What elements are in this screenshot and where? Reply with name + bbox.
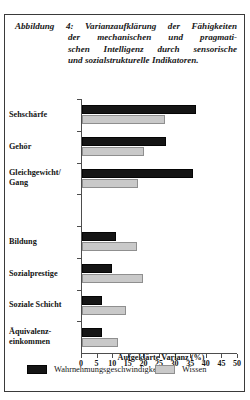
category-label-4: Bildung — [9, 237, 79, 247]
category-label-line-1: Sehschärfe — [9, 110, 79, 120]
legend-swatch-dark-icon — [27, 365, 47, 374]
caption-text-4: und sozialstrukturelle Indikatoren. — [68, 55, 199, 65]
category-label-line-1: Sozialprestige — [9, 269, 79, 279]
caption-text-1: Varianzaufklärung der Fähigkeiten — [85, 21, 237, 31]
y-tick-6 — [77, 290, 81, 291]
category-label-6: Soziale Schicht — [9, 300, 79, 310]
bar-wahrnehmungsgeschwindigkeit-0 — [82, 105, 196, 114]
category-label-line-2: einkommen — [9, 337, 79, 347]
caption-text-3: schen Intelligenz durch sensorische — [68, 44, 237, 54]
bar-wissen-6 — [82, 306, 126, 315]
category-label-line-2: Gang — [9, 178, 79, 188]
bar-wissen-7 — [82, 338, 118, 347]
legend-swatch-light-icon — [155, 365, 175, 374]
bar-wissen-4 — [82, 242, 137, 251]
y-tick-0 — [77, 99, 81, 100]
plot-area: 05101520253035404550 — [81, 99, 237, 353]
caption-line-4: und sozialstrukturelle Indikatoren. — [15, 55, 237, 66]
caption-line-2: der mechanischen und pragmati- — [15, 32, 237, 43]
bar-wahrnehmungsgeschwindigkeit-2 — [82, 169, 193, 178]
category-label-line-1: Gehör — [9, 142, 79, 152]
x-axis-label: Aufgeklärte Varianz (%) — [83, 353, 239, 362]
caption-line-3: schen Intelligenz durch sensorische — [15, 44, 237, 55]
figure-frame: Abbildung 4: Varianzaufklärung der Fähig… — [4, 14, 245, 392]
category-label-column: SehschärfeGehörGleichgewicht/GangBildung… — [9, 99, 79, 353]
category-label-line-1: Bildung — [9, 237, 79, 247]
chart-legend: Wahrnehmungsgeschwindigkeit Wissen — [5, 363, 244, 387]
category-label-1: Gehör — [9, 142, 79, 152]
caption-label: Abbildung 4: — [15, 21, 74, 31]
y-tick-7 — [77, 321, 81, 322]
y-tick-2 — [77, 163, 81, 164]
category-label-line-1: Soziale Schicht — [9, 300, 79, 310]
x-tick-0 — [81, 354, 82, 358]
category-label-line-1: Gleichgewicht/ — [9, 168, 79, 178]
category-label-7: Äquivalenz-einkommen — [9, 327, 79, 346]
caption-line-1: Abbildung 4: Varianzaufklärung der Fähig… — [15, 21, 237, 32]
bar-wahrnehmungsgeschwindigkeit-4 — [82, 232, 116, 241]
bar-wissen-1 — [82, 147, 144, 156]
bar-wahrnehmungsgeschwindigkeit-6 — [82, 296, 102, 305]
bar-wahrnehmungsgeschwindigkeit-7 — [82, 328, 102, 337]
bar-wissen-0 — [82, 115, 165, 124]
caption-text-2: der mechanischen und pragmati- — [68, 32, 237, 42]
y-tick-4 — [77, 226, 81, 227]
bar-wahrnehmungsgeschwindigkeit-1 — [82, 137, 166, 146]
legend-item-wahrnehmungsgeschwindigkeit: Wahrnehmungsgeschwindigkeit — [27, 365, 161, 374]
legend-label-light: Wissen — [182, 365, 206, 374]
bar-chart: SehschärfeGehörGleichgewicht/GangBildung… — [5, 81, 244, 357]
category-label-5: Sozialprestige — [9, 269, 79, 279]
legend-label-dark: Wahrnehmungsgeschwindigkeit — [54, 365, 161, 374]
y-tick-3 — [77, 194, 81, 195]
category-label-0: Sehschärfe — [9, 110, 79, 120]
category-label-2: Gleichgewicht/Gang — [9, 168, 79, 187]
bar-wissen-5 — [82, 274, 143, 283]
y-tick-5 — [77, 258, 81, 259]
legend-item-wissen: Wissen — [155, 365, 206, 374]
bar-wahrnehmungsgeschwindigkeit-5 — [82, 264, 112, 273]
figure-caption: Abbildung 4: Varianzaufklärung der Fähig… — [15, 21, 237, 67]
bar-wissen-2 — [82, 179, 138, 188]
y-tick-1 — [77, 131, 81, 132]
category-label-line-1: Äquivalenz- — [9, 327, 79, 337]
